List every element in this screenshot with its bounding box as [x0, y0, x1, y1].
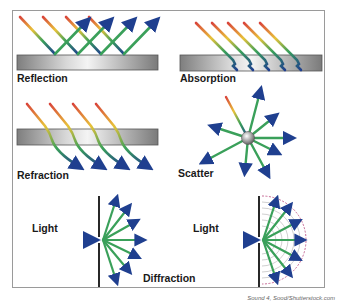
absorption-panel: [180, 23, 322, 71]
diffraction-right-light-label: Light: [193, 222, 219, 234]
refraction-panel: [17, 104, 158, 166]
diffraction-label: Diffraction: [143, 272, 196, 284]
reflection-surface: [17, 55, 158, 70]
reflection-label: Reflection: [17, 72, 68, 84]
refraction-surface: [17, 129, 158, 145]
absorption-label: Absorption: [180, 72, 236, 84]
reflection-panel: [17, 17, 158, 70]
diffraction-left-light-label: Light: [32, 222, 58, 234]
scatter-particle: [242, 132, 255, 145]
scatter-label: Scatter: [178, 167, 214, 179]
scatter-panel: [205, 92, 290, 173]
image-credit: Sound 4, Sood/Shutterstock.com: [247, 295, 335, 301]
diffraction-left-panel: [32, 196, 141, 287]
refraction-label: Refraction: [17, 169, 69, 181]
diffraction-right-panel: [194, 196, 306, 287]
light-behaviors-diagram: [0, 0, 337, 301]
